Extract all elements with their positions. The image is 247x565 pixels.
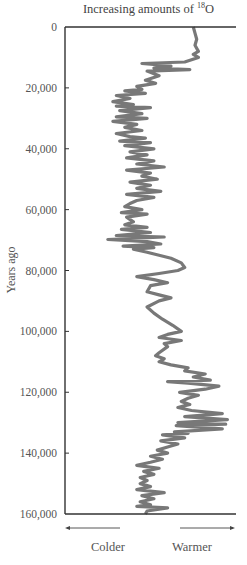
y-tick-label: 120,000 bbox=[20, 386, 58, 399]
colder-arrowhead-icon bbox=[65, 526, 70, 530]
y-axis-ticks: 020,00040,00060,00080,000100,000120,0001… bbox=[20, 21, 69, 521]
y-tick-label: 40,000 bbox=[25, 143, 57, 156]
y-tick-label: 100,000 bbox=[20, 325, 58, 338]
warmer-label: Warmer bbox=[172, 540, 212, 555]
y-axis-label: Years ago bbox=[4, 246, 18, 293]
chart-plot: 020,00040,00060,00080,000100,000120,0001… bbox=[0, 0, 247, 565]
y-tick-label: 80,000 bbox=[25, 265, 57, 278]
y-tick-label: 140,000 bbox=[20, 447, 58, 460]
colder-label: Colder bbox=[91, 540, 125, 555]
y-tick-label: 60,000 bbox=[25, 204, 57, 217]
y-tick-label: 20,000 bbox=[25, 82, 57, 95]
y-tick-label: 160,000 bbox=[20, 508, 58, 521]
o18-curve bbox=[108, 27, 228, 514]
y-tick-label: 0 bbox=[51, 21, 57, 33]
warmer-arrowhead-icon bbox=[230, 526, 235, 530]
